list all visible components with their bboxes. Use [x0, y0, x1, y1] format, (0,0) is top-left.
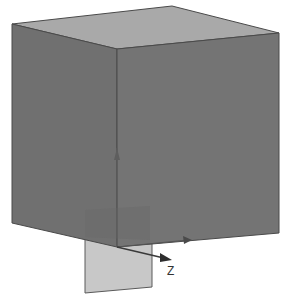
3d-viewport[interactable]: Z	[0, 0, 283, 306]
z-axis-label: Z	[167, 264, 174, 278]
cube[interactable]	[12, 6, 279, 247]
z-axis-arrow-icon	[160, 253, 172, 262]
